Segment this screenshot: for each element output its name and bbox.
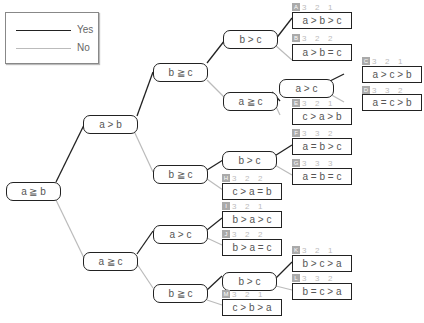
leaf-tag-H: H322 <box>222 174 271 183</box>
leaf-A: a > b > c <box>292 12 352 29</box>
legend: Yes No <box>5 12 99 64</box>
leaf-L: b = c > a <box>292 283 352 300</box>
leaf-C: a > c > b <box>362 66 422 83</box>
leaf-I: b > a > c <box>222 211 282 228</box>
leaf-tag-B: B322 <box>292 34 341 43</box>
leaf-E: c > a > b <box>292 108 352 125</box>
leaf-D: a = c > b <box>362 94 422 111</box>
leaf-tag-J: J322 <box>222 230 271 239</box>
leaf-F: a = b > c <box>292 138 352 155</box>
leaf-M: c > b > a <box>222 299 282 316</box>
leaf-G: a = b = c <box>292 168 352 185</box>
node-root: a ≧ b <box>6 182 61 201</box>
leaf-tag-G: G333 <box>292 159 341 168</box>
leaf-tag-F: F332 <box>292 129 341 138</box>
leaf-B: a > b = c <box>292 44 352 61</box>
node-a-ge-c-2: a ≧ c <box>83 252 138 271</box>
legend-no-line <box>16 48 71 49</box>
leaf-tag-A: A321 <box>292 3 341 12</box>
node-a-ge-c-1: a ≧ c <box>223 92 278 111</box>
node-a-gt-c-2: a > c <box>153 225 208 244</box>
leaf-tag-E: E321 <box>292 99 341 108</box>
node-b-ge-c-3: b ≧ c <box>153 284 208 303</box>
leaf-badge-A: A <box>292 3 300 11</box>
legend-yes-label: Yes <box>77 24 93 35</box>
leaf-tag-M: M321 <box>222 290 271 299</box>
node-b-ge-c-2: b ≧ c <box>153 165 208 184</box>
node-b-gt-c-2: b > c <box>222 151 277 170</box>
leaf-tag-C: C321 <box>362 57 411 66</box>
legend-no-label: No <box>77 42 90 53</box>
leaf-tag-L: L332 <box>292 274 341 283</box>
leaf-H: c > a = b <box>222 183 282 200</box>
node-b-gt-c-1: b > c <box>223 30 278 49</box>
legend-yes-line <box>16 30 71 31</box>
leaf-tag-I: I321 <box>222 202 271 211</box>
node-b-ge-c-1: b ≧ c <box>153 63 208 82</box>
node-a-gt-b: a > b <box>83 115 138 134</box>
leaf-tag-K: K321 <box>292 246 341 255</box>
leaf-J: b > a = c <box>222 239 282 256</box>
node-a-gt-c-1: a > c <box>279 79 334 98</box>
leaf-K: b > c > a <box>292 255 352 272</box>
node-b-gt-c-3: b > c <box>222 272 277 291</box>
